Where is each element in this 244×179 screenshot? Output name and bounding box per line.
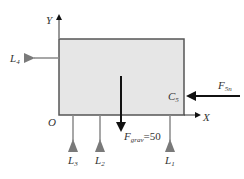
l2-label: L2 bbox=[95, 155, 105, 168]
l3-label-sub: 3 bbox=[74, 160, 78, 168]
gravity-force-label: Fgrav=50 bbox=[124, 131, 161, 144]
x-axis-arrow bbox=[184, 112, 201, 118]
x-axis-label: X bbox=[203, 112, 210, 123]
applied-force-label-sub: 5n bbox=[225, 85, 232, 93]
c5-label: C5 bbox=[168, 91, 179, 104]
y-axis-label: Y bbox=[46, 15, 52, 26]
l4-label-sub: 4 bbox=[16, 58, 20, 66]
support-l4 bbox=[24, 53, 59, 63]
l4-label: L4 bbox=[10, 53, 20, 66]
support-l2 bbox=[95, 115, 105, 152]
l2-label-sub: 2 bbox=[101, 160, 105, 168]
gravity-force-label-main: F bbox=[124, 130, 131, 142]
y-axis-arrow bbox=[56, 14, 62, 38]
free-body-diagram: Y X O L4 L3 L2 L1 C5 F5n Fgrav=50 bbox=[0, 0, 244, 179]
origin-label: O bbox=[48, 117, 56, 128]
gravity-force-value: =50 bbox=[144, 130, 161, 142]
l1-label: L1 bbox=[165, 155, 175, 168]
support-l3 bbox=[68, 115, 78, 152]
c5-label-sub: 5 bbox=[175, 96, 179, 104]
l1-label-sub: 1 bbox=[171, 160, 175, 168]
applied-force-label: F5n bbox=[218, 80, 232, 93]
l3-label: L3 bbox=[68, 155, 78, 168]
gravity-force-label-sub: grav bbox=[131, 136, 144, 144]
applied-force-label-main: F bbox=[218, 79, 225, 91]
support-l1 bbox=[165, 115, 175, 152]
diagram-canvas bbox=[0, 0, 244, 179]
